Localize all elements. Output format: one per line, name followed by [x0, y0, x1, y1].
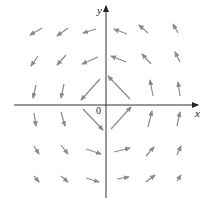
- vector-arrow-icon: [34, 176, 39, 182]
- vector-arrow-icon: [175, 52, 180, 62]
- vector-arrow-icon: [86, 149, 101, 154]
- x-axis-label: x: [195, 108, 200, 119]
- vector-arrow-icon: [148, 111, 152, 127]
- vector-arrow-icon: [111, 56, 126, 62]
- vector-arrow-icon: [173, 24, 178, 33]
- vector-arrow-icon: [114, 148, 130, 152]
- origin-label: 0: [96, 106, 101, 116]
- vector-arrow-icon: [86, 178, 99, 182]
- vector-arrow-icon: [108, 76, 130, 99]
- vector-arrow-icon: [142, 54, 151, 64]
- vector-arrow-icon: [34, 113, 36, 126]
- vector-arrow-icon: [177, 146, 181, 155]
- vector-arrow-icon: [150, 80, 153, 96]
- vector-arrow-icon: [31, 56, 38, 66]
- vector-arrow-icon: [61, 176, 68, 182]
- vector-arrow-icon: [178, 82, 180, 96]
- vector-arrow-icon: [83, 29, 96, 33]
- vector-arrow-icon: [114, 29, 127, 34]
- vector-arrow-icon: [117, 177, 129, 179]
- vector-arrow-icon: [57, 55, 66, 65]
- vector-arrow-icon: [139, 25, 148, 33]
- vector-arrow-icon: [61, 84, 64, 98]
- vector-field-figure: y x 0: [0, 0, 213, 202]
- vector-arrow-icon: [61, 145, 68, 154]
- vector-field-plot: [0, 0, 213, 202]
- vector-arrow-icon: [61, 112, 65, 126]
- vector-arrow-icon: [81, 79, 100, 100]
- vector-arrow-icon: [177, 112, 180, 126]
- vector-arrow-icon: [146, 175, 155, 182]
- vector-arrow-icon: [177, 175, 181, 181]
- y-axis-label: y: [97, 5, 102, 16]
- vector-arrow-icon: [30, 28, 42, 35]
- vector-arrow-icon: [33, 85, 36, 98]
- vector-arrow-icon: [111, 107, 131, 129]
- vector-arrow-icon: [34, 146, 39, 154]
- vector-arrow-icon: [82, 57, 98, 64]
- vector-arrow-icon: [57, 28, 68, 36]
- vector-arrow-icon: [146, 147, 154, 156]
